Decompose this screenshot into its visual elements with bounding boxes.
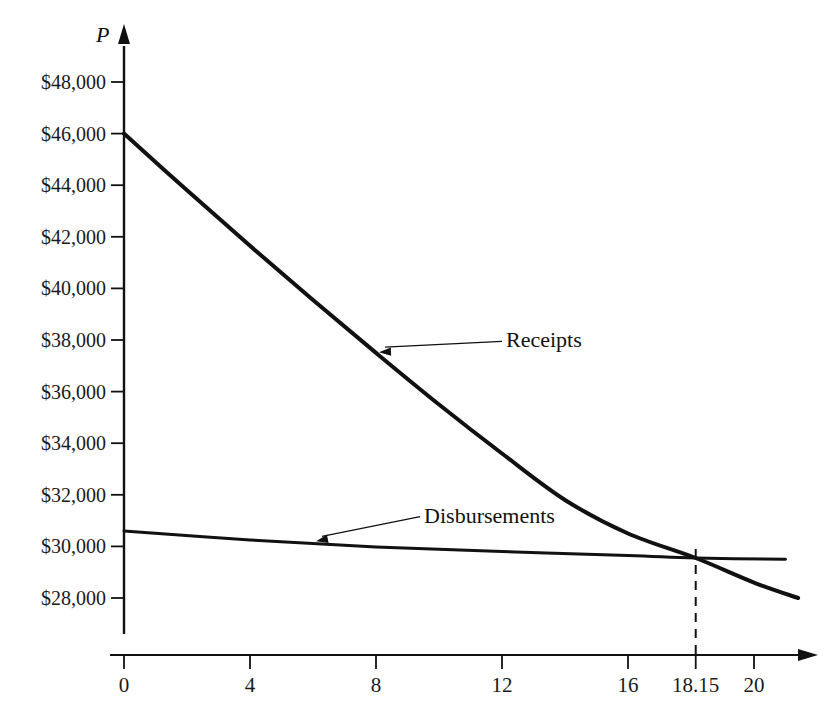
x-axis-tick-label: 0 [119,673,130,698]
y-axis-tick-label: $40,000 [0,277,106,300]
y-axis-tick-label: $46,000 [0,122,106,145]
y-axis-tick-label: $42,000 [0,225,106,248]
y-axis-arrow-icon [118,24,130,44]
y-axis-tick-label: $38,000 [0,329,106,352]
y-axis-tick-label: $28,000 [0,587,106,610]
chart-figure: $48,000$46,000$44,000$42,000$40,000$38,0… [0,0,827,718]
x-axis-tick-label: 8 [371,673,382,698]
annotation-leader-line [322,517,420,537]
chart-canvas [0,0,827,718]
y-axis-tick-label: $48,000 [0,71,106,94]
x-axis-tick-label: 4 [245,673,256,698]
axes-group [110,24,818,669]
x-axis-tick-label: 12 [492,673,513,698]
series-label-disbursements: Disbursements [424,503,555,529]
x-axis-tick-label: 20 [744,673,765,698]
y-axis-tick-label: $44,000 [0,174,106,197]
annotation-leader-line [385,341,502,347]
y-axis-tick-label: $30,000 [0,535,106,558]
y-axis-title: P [96,22,109,48]
y-axis-tick-label: $32,000 [0,483,106,506]
x-axis-tick-label: 16 [618,673,639,698]
x-axis-tick-label: 18.15 [672,673,719,698]
y-axis-tick-label: $34,000 [0,432,106,455]
series-label-receipts: Receipts [506,327,582,353]
y-axis-tick-label: $36,000 [0,380,106,403]
x-axis-arrow-icon [798,649,818,661]
